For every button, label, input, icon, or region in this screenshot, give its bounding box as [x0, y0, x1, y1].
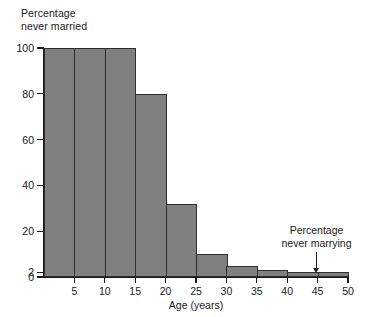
- y-axis-title-line-2: never married: [21, 20, 87, 33]
- histogram-bar: [196, 254, 228, 277]
- y-tick-mark: [37, 231, 44, 232]
- y-tick-label: 40: [0, 180, 34, 191]
- histogram-bar: [318, 272, 350, 277]
- x-tick-mark: [226, 277, 227, 283]
- x-tick-label: 50: [333, 286, 363, 297]
- x-axis-title: Age (years): [44, 300, 348, 311]
- x-tick-label: 45: [303, 286, 333, 297]
- x-tick-mark: [287, 277, 288, 283]
- histogram-bar: [257, 270, 289, 277]
- x-tick-mark: [165, 277, 166, 283]
- annotation-never-marrying: Percentage never marrying: [268, 224, 365, 250]
- y-tick-mark: [37, 272, 44, 273]
- x-tick-mark: [135, 277, 136, 283]
- histogram-bar: [74, 48, 106, 277]
- y-tick-mark: [37, 276, 44, 277]
- histogram-figure: Percentage never married 1008060402020 5…: [0, 0, 365, 317]
- x-tick-label: 5: [59, 286, 89, 297]
- x-tick-label: 30: [211, 286, 241, 297]
- annotation-line-1: Percentage: [268, 224, 365, 237]
- y-tick-mark: [37, 47, 44, 48]
- x-tick-mark: [256, 277, 257, 283]
- x-tick-label: 25: [181, 286, 211, 297]
- histogram-bar: [226, 266, 258, 278]
- y-tick-label: 100: [0, 43, 34, 54]
- y-axis-title: Percentage never married: [21, 7, 87, 33]
- annotation-arrow-icon: [316, 252, 317, 269]
- histogram-bar: [135, 94, 167, 278]
- y-tick-mark: [37, 139, 44, 140]
- y-tick-mark: [37, 93, 44, 94]
- histogram-bar: [44, 48, 76, 277]
- y-tick-label: 80: [0, 89, 34, 100]
- x-tick-mark: [347, 277, 348, 283]
- y-tick-label: 60: [0, 135, 34, 146]
- y-tick-label: 0: [0, 272, 34, 283]
- x-tick-mark: [195, 277, 196, 283]
- annotation-line-2: never marrying: [268, 237, 365, 250]
- y-tick-label: 20: [0, 226, 34, 237]
- x-tick-label: 15: [120, 286, 150, 297]
- y-axis-title-line-1: Percentage: [21, 7, 87, 20]
- x-tick-mark: [317, 277, 318, 283]
- y-tick-mark: [37, 185, 44, 186]
- x-tick-mark: [104, 277, 105, 283]
- histogram-bar: [105, 48, 137, 277]
- x-tick-label: 40: [272, 286, 302, 297]
- x-tick-label: 20: [151, 286, 181, 297]
- histogram-bar: [287, 272, 319, 277]
- histogram-bar: [166, 204, 198, 278]
- x-tick-mark: [74, 277, 75, 283]
- x-tick-label: 10: [90, 286, 120, 297]
- x-tick-label: 35: [242, 286, 272, 297]
